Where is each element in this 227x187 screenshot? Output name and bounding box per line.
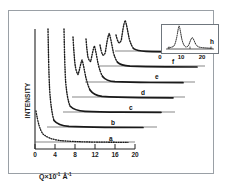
- curve-g-rise-peak: [116, 21, 134, 49]
- curve-c-rise: [64, 29, 70, 106]
- curve-label-c: c: [129, 104, 133, 111]
- xtick-label-4: 4: [49, 151, 61, 158]
- curve-b-tail: [54, 121, 143, 128]
- xtick-label-16: 16: [109, 151, 121, 158]
- curve-label-e: e: [155, 73, 159, 80]
- curve-f-tail: [118, 62, 197, 67]
- x-axis-ticks: [35, 144, 135, 149]
- curve-b-rise: [48, 29, 54, 121]
- x-axis-title: Q×10-1 Å-1: [39, 172, 72, 180]
- xtick-label-8: 8: [69, 151, 81, 158]
- inset-curve-h-trace: [168, 26, 212, 48]
- curve-d-tail: [90, 90, 173, 98]
- curve-label-d: d: [141, 89, 145, 96]
- x-axis-title-exp1: -1: [56, 172, 60, 177]
- y-axis-title: INTENSITY: [24, 73, 31, 129]
- inset-panel: h: [161, 24, 219, 54]
- x-axis-title-exp2: -1: [67, 172, 71, 177]
- xtick-label-12: 12: [89, 151, 101, 158]
- inset-xtick-label-10: 10: [175, 54, 187, 60]
- x-axis-title-times: ×10: [44, 173, 56, 180]
- figure-root: 0 4 8 12 16 20 INTENSITY Q×10-1 Å-1 a b …: [0, 0, 227, 187]
- curve-label-a: a: [109, 135, 113, 142]
- xtick-label-20: 20: [129, 151, 141, 158]
- curve-c-tail: [70, 106, 161, 112]
- xtick-label-0: 0: [29, 151, 41, 158]
- curve-f-rise-peak: [100, 34, 118, 63]
- inset-xtick-label-0: 0: [154, 54, 166, 60]
- inset-xtick-label-20: 20: [196, 54, 208, 60]
- figure-outer-frame: 0 4 8 12 16 20 INTENSITY Q×10-1 Å-1 a b …: [8, 10, 214, 174]
- curve-label-b: b: [111, 119, 115, 126]
- curve-label-f: f: [172, 58, 174, 65]
- inset-curve-label-h: h: [210, 38, 214, 45]
